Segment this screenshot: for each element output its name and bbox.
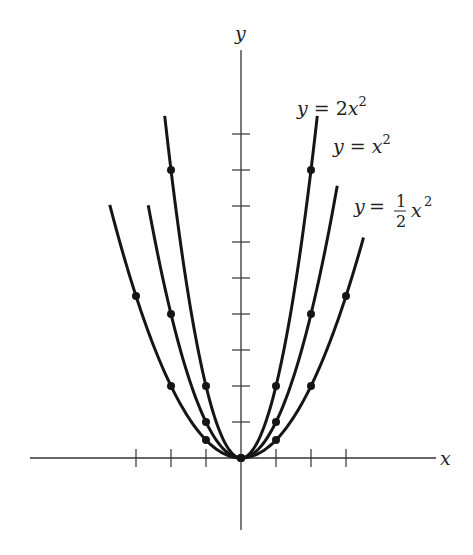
curve-series-1 bbox=[148, 186, 337, 458]
svg-text:1: 1 bbox=[396, 192, 406, 211]
svg-text:y=x2: y=x2 bbox=[332, 132, 391, 157]
svg-text:y: y bbox=[353, 195, 365, 217]
svg-text:2: 2 bbox=[424, 194, 432, 209]
data-point bbox=[167, 382, 175, 390]
label-x2: y=x2 bbox=[332, 132, 391, 157]
svg-text:2: 2 bbox=[396, 212, 406, 231]
data-point bbox=[272, 382, 280, 390]
data-point bbox=[237, 454, 245, 462]
y-axis-label: y bbox=[234, 22, 246, 44]
data-point bbox=[307, 166, 315, 174]
svg-text:=: = bbox=[369, 195, 385, 217]
data-point bbox=[307, 382, 315, 390]
data-point bbox=[202, 436, 210, 444]
data-point bbox=[202, 418, 210, 426]
svg-text:y=2x2: y=2x2 bbox=[296, 94, 367, 119]
x-axis-label: x bbox=[440, 447, 451, 469]
label-2x2: y=2x2 bbox=[296, 94, 367, 119]
data-point bbox=[342, 292, 350, 300]
curves bbox=[110, 116, 364, 458]
label-half-x2: y = 1 2 x 2 bbox=[353, 192, 432, 231]
data-point bbox=[272, 418, 280, 426]
parabola-chart: x y y=2x2 y=x2 y = 1 2 x 2 bbox=[0, 0, 473, 555]
data-point bbox=[272, 436, 280, 444]
data-point bbox=[167, 310, 175, 318]
data-point bbox=[132, 292, 140, 300]
data-point bbox=[307, 310, 315, 318]
data-point bbox=[202, 382, 210, 390]
data-point bbox=[167, 166, 175, 174]
svg-text:x: x bbox=[411, 199, 422, 221]
